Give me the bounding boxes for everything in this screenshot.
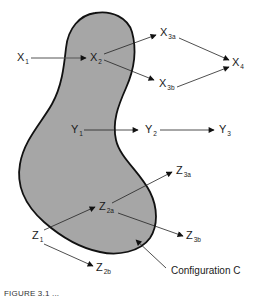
node-z1-base: Z <box>32 229 39 241</box>
arrow-x3b-x4 <box>177 67 229 87</box>
figure-caption: FIGURE 3.1 ... <box>4 289 59 296</box>
node-y1-base: Y <box>71 123 78 135</box>
node-z2b: Z2b <box>96 262 111 276</box>
node-z3b-sub: 3b <box>194 236 201 243</box>
node-y3: Y3 <box>219 124 231 138</box>
node-x3a: X3a <box>160 27 176 41</box>
node-x4: X4 <box>232 57 244 71</box>
node-z2b-base: Z <box>96 261 103 273</box>
arrow-x3a-x4 <box>179 38 229 60</box>
node-z3a-sub: 3a <box>184 171 191 178</box>
node-z3b: Z3b <box>186 230 201 244</box>
node-y3-sub: 3 <box>227 130 231 137</box>
node-x1: X1 <box>17 52 29 66</box>
node-x4-base: X <box>232 56 239 68</box>
node-z2a: Z2a <box>99 201 114 215</box>
arrow-config-pointer <box>136 240 166 268</box>
node-x3a-base: X <box>160 26 167 38</box>
node-y1: Y1 <box>71 124 83 138</box>
configuration-label: Configuration C <box>171 265 240 276</box>
node-y2-sub: 2 <box>153 130 157 137</box>
node-z3a: Z3a <box>176 165 191 179</box>
configuration-diagram <box>0 0 258 296</box>
node-z1-sub: 1 <box>40 236 44 243</box>
node-x4-sub: 4 <box>240 63 244 70</box>
node-x3b-base: X <box>159 77 166 89</box>
node-z3b-base: Z <box>186 229 193 241</box>
node-x1-sub: 1 <box>25 58 29 65</box>
node-z2a-sub: 2a <box>107 207 114 214</box>
configuration-region <box>19 12 156 253</box>
node-z2b-sub: 2b <box>104 268 111 275</box>
node-z3a-base: Z <box>176 164 183 176</box>
node-y2-base: Y <box>145 123 152 135</box>
node-x3b-sub: 3b <box>167 84 174 91</box>
node-x3a-sub: 3a <box>168 33 175 40</box>
node-y1-sub: 1 <box>79 130 83 137</box>
node-x2-sub: 2 <box>98 58 102 65</box>
node-x1-base: X <box>17 51 24 63</box>
node-z2a-base: Z <box>99 200 106 212</box>
node-x2-base: X <box>90 51 97 63</box>
node-z1: Z1 <box>32 230 43 244</box>
node-y3-base: Y <box>219 123 226 135</box>
node-y2: Y2 <box>145 124 157 138</box>
node-x3b: X3b <box>159 78 175 92</box>
node-x2: X2 <box>90 52 102 66</box>
